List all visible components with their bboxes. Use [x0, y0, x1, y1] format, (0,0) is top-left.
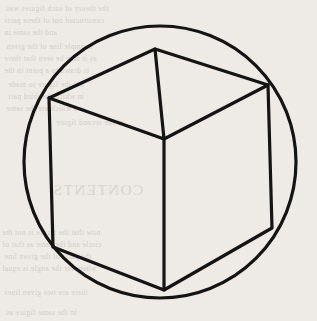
- cube-edge-upper-left-to-center: [49, 98, 164, 139]
- cube-edge-top-to-center: [155, 49, 164, 139]
- cube-edge-upper-right-to-center: [164, 85, 268, 139]
- circumscribing-circle: [24, 26, 296, 298]
- cube-in-circle-figure: [0, 0, 317, 321]
- cube-outline-hexagon: [49, 49, 272, 290]
- figure-canvas: the theory of such figures wasconstructe…: [0, 0, 317, 321]
- figure-ink: [24, 26, 296, 298]
